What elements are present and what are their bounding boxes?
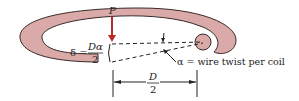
force-label: P xyxy=(108,5,116,16)
dim-denominator: 2 xyxy=(150,84,156,95)
coil-twist-diagram: P δ = Dα 2 α = wire twist per coil D 2 xyxy=(0,0,299,101)
angle-arrowhead-top xyxy=(161,38,165,42)
delta-lhs: δ = xyxy=(70,47,88,58)
angle-arrow-bottom xyxy=(165,51,176,62)
force-arrowhead xyxy=(108,35,116,42)
reference-line xyxy=(112,42,203,44)
alpha-description: α = wire twist per coil xyxy=(177,56,285,67)
delta-bracket xyxy=(109,44,111,62)
dim-arrow-left xyxy=(114,80,121,84)
dim-numerator: D xyxy=(148,71,157,82)
delta-numerator: Dα xyxy=(87,41,103,52)
delta-denominator: 2 xyxy=(92,54,98,65)
dim-arrow-right xyxy=(189,80,196,84)
